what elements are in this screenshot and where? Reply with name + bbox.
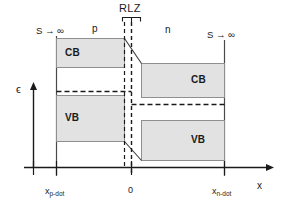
n-side-valence-band-block	[142, 121, 225, 161]
left-surface-recombination-label: S → ∞	[36, 26, 64, 36]
energy-axis-label: ϵ	[16, 84, 21, 95]
n-side-conduction-band-block	[142, 64, 225, 98]
p-side-conduction-band-label: CB	[65, 48, 80, 58]
x-tick-label-n-dot: xn-dot	[212, 187, 231, 196]
p-side-valence-band-label: VB	[65, 113, 79, 123]
valence-band-bending-line	[125, 142, 142, 161]
right-surface-recombination-label: S → ∞	[207, 30, 235, 40]
band-diagram-figure: RLZ S → ∞ p n S → ∞ CB VB CB VB ϵ x xp-d…	[0, 0, 285, 215]
x-tick-label-p-dot: xp-dot	[45, 187, 64, 196]
x-tick-label-zero-main: 0	[128, 185, 133, 195]
conduction-band-bending-line	[125, 39, 142, 64]
x-axis-label: x	[257, 181, 262, 191]
n-side-valence-band-label: VB	[191, 135, 205, 145]
n-side-conduction-band-label: CB	[191, 75, 206, 85]
x-tick-label-n-dot-sub: n-dot	[217, 190, 232, 197]
p-region-label: p	[92, 24, 98, 34]
rlz-bracket	[123, 18, 141, 23]
rlz-label: RLZ	[119, 3, 141, 14]
x-axis	[24, 164, 274, 171]
x-tick-label-zero: 0	[128, 186, 133, 195]
x-tick-label-p-dot-main: x	[45, 186, 50, 196]
energy-axis	[30, 82, 37, 168]
x-tick-label-p-dot-sub: p-dot	[50, 190, 65, 197]
x-tick-label-n-dot-main: x	[212, 186, 217, 196]
n-region-label: n	[165, 25, 171, 35]
